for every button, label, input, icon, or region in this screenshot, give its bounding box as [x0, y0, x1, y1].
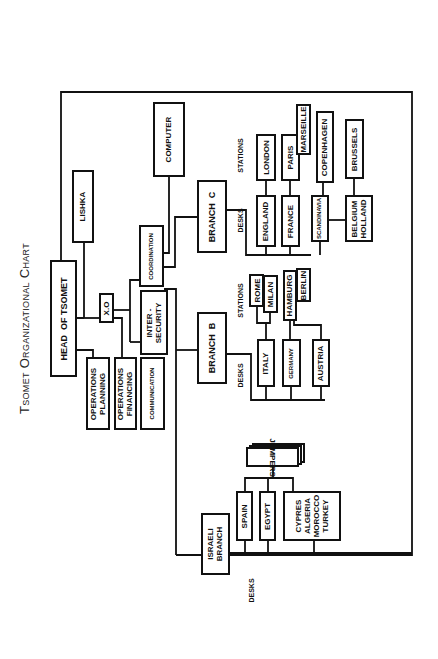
station-milan: MILAN: [263, 275, 278, 313]
inter-security-box: INTER - SECURITY: [140, 290, 168, 355]
station-brussels: BRUSSELS: [345, 119, 364, 179]
israeli-desks-label: DESKS: [245, 575, 257, 605]
operations-financing-box: OPERATIONS FINANCING: [114, 357, 137, 430]
desk-cypres-algeria-morocco-turkey: CYPRES ALGERIA MOROCCO TURKEY: [283, 491, 341, 541]
jumpers-box: JUMPERS: [246, 447, 299, 467]
station-marseille: MARSEILLE: [296, 104, 311, 155]
branch-c-stations-label: STATIONS: [234, 130, 246, 180]
branch-b-stations-label: STATIONS: [234, 275, 246, 325]
branch-b-desks-label: DESKS: [234, 355, 246, 395]
head-of-tsomet-box: HEAD OF TSOMET: [50, 260, 77, 377]
desk-egypt: EGYPT: [259, 491, 276, 541]
desk-scandinavia: SCANDINAVIA: [311, 195, 329, 242]
station-copenhagen: COPENHAGEN: [316, 111, 334, 183]
branch-b-box: BRANCH B: [197, 312, 227, 384]
branch-c-desks-label: DESKS: [234, 195, 246, 245]
desk-italy: ITALY: [257, 339, 275, 387]
desk-germany: GERMANY: [282, 339, 301, 387]
operations-planning-box: OPERATIONS PLANNING: [86, 357, 110, 430]
xo-box: X.O: [99, 293, 114, 323]
station-berlin: BERLIN: [296, 268, 311, 302]
station-london: LONDON: [256, 134, 276, 181]
desk-france: FRANCE: [281, 195, 300, 247]
station-rome: ROME: [249, 274, 264, 307]
desk-england: ENGLAND: [256, 195, 276, 247]
israeli-branch-box: ISRAELI BRANCH: [201, 513, 230, 575]
coordination-box: COORDINATION: [139, 225, 164, 287]
lishka-box: LISHKA: [72, 170, 94, 243]
desk-spain: SPAIN: [236, 491, 253, 541]
desk-austria: AUSTRIA: [312, 339, 330, 387]
desk-belgium-holland: BELGIUM HOLLAND: [345, 195, 373, 242]
computer-box: COMPUTER: [153, 102, 185, 177]
communication-box: COMMUNICATION: [140, 357, 165, 430]
branch-c-box: BRANCH C: [197, 180, 227, 253]
station-hamburg: HAMBURG: [283, 270, 297, 321]
